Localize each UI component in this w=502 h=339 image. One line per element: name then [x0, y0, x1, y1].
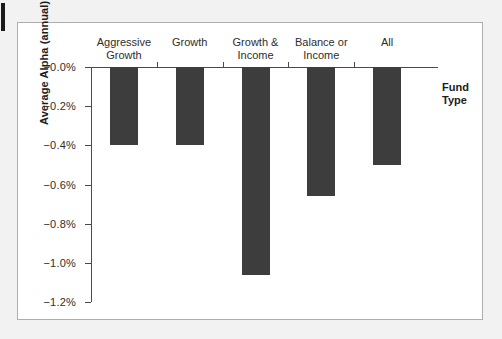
plot-area: −0.0%−0.2%−0.4%−0.6%−0.8%−1.0%−1.2% Aggr…: [91, 67, 420, 302]
y-axis-tick: −0.8%: [85, 224, 91, 225]
bar: [307, 67, 335, 196]
x-axis-tick: [157, 62, 158, 67]
y-axis-tick: −0.4%: [85, 145, 91, 146]
bar: [242, 67, 270, 275]
y-axis-tick: −0.6%: [85, 185, 91, 186]
x-axis-title: Fund Type: [442, 81, 469, 107]
y-axis-tick-label: −1.2%: [44, 296, 77, 308]
scan-edge-artifact: [1, 3, 5, 31]
y-axis-tick: −1.2%: [85, 302, 91, 303]
y-axis-tick: −0.2%: [85, 106, 91, 107]
y-axis-tick-label: −0.2%: [44, 100, 77, 112]
x-axis-tick: [223, 62, 224, 67]
y-axis-tick-label: −0.4%: [44, 139, 77, 151]
y-axis-line: [91, 67, 92, 302]
x-axis-tick: [354, 62, 355, 67]
page-background: Average Alpha (annual) Fund Type −0.0%−0…: [0, 0, 502, 339]
bar: [110, 67, 138, 145]
bar: [373, 67, 401, 165]
y-axis-tick-label: −0.6%: [44, 179, 77, 191]
y-axis-tick-label: −0.8%: [44, 218, 77, 230]
bar: [176, 67, 204, 145]
y-axis-tick: −1.0%: [85, 263, 91, 264]
figure-frame: Average Alpha (annual) Fund Type −0.0%−0…: [17, 22, 483, 320]
x-axis-category-label: All: [348, 36, 426, 49]
x-axis-tick: [288, 62, 289, 67]
y-axis-tick: −0.0%: [85, 67, 91, 68]
y-axis-tick-label: −0.0%: [44, 61, 77, 73]
y-axis-tick-label: −1.0%: [44, 257, 77, 269]
x-axis-line-extension: [420, 67, 438, 68]
